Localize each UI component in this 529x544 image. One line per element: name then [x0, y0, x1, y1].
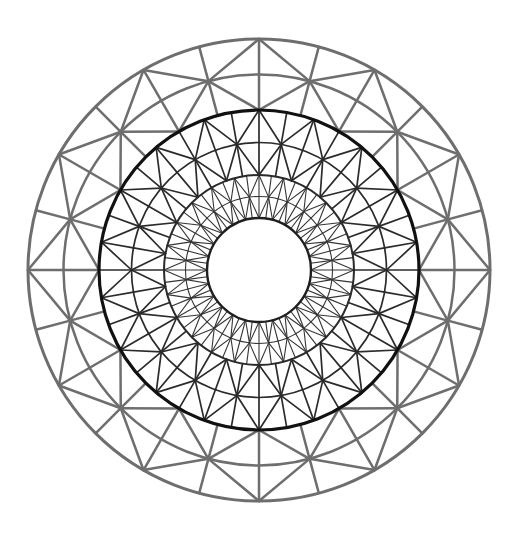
mesh-spoke-outer-zone — [397, 408, 422, 433]
mesh-spoke-outer-zone — [59, 155, 90, 173]
mesh-diagonal-middle-zone — [237, 396, 259, 430]
mesh-spoke-outer-zone — [357, 439, 375, 470]
mesh-diagonal-outer-zone — [59, 321, 70, 386]
mesh-diagonal-inner-zone — [249, 175, 259, 197]
mesh-diagonal-inner-zone — [186, 257, 209, 261]
mesh-diagonal-middle-zone — [195, 380, 204, 420]
mesh-diagonal-inner-zone — [231, 338, 235, 362]
mesh-diagonal-middle-zone — [341, 314, 379, 318]
mesh-spoke-middle-zone — [231, 112, 237, 144]
mesh-diagonal-inner-zone — [284, 338, 288, 362]
mesh-spoke-outer-zone — [199, 47, 208, 81]
mesh-diagonal-middle-zone — [259, 110, 281, 144]
mesh-diagonal-inner-zone — [164, 270, 186, 280]
mesh-diagonal-middle-zone — [139, 223, 177, 227]
mesh-diagonal-inner-zone — [259, 343, 269, 365]
mesh-diagonal-inner-zone — [309, 257, 332, 261]
mesh-diagonal-middle-zone — [357, 188, 398, 190]
mesh-zone-outer — [28, 39, 490, 501]
mesh-spoke-outer-zone — [372, 383, 397, 408]
mesh-spoke-outer-zone — [398, 350, 429, 368]
mesh-diagonal-middle-zone — [314, 120, 323, 160]
mesh-diagonal-middle-zone — [132, 270, 166, 287]
mesh-spoke-inner-zone — [192, 322, 207, 337]
mesh-figure — [0, 0, 529, 544]
mesh-spoke-outer-zone — [448, 321, 482, 330]
mesh-spoke-middle-zone — [136, 167, 161, 188]
mesh-diagonal-middle-zone — [281, 359, 291, 395]
mesh-spoke-middle-zone — [357, 352, 382, 373]
mesh-diagonal-inner-zone — [167, 242, 191, 246]
mesh-spoke-outer-zone — [144, 70, 162, 101]
mesh-diagonal-inner-zone — [269, 320, 273, 343]
mesh-diagonal-outer-zone — [310, 70, 375, 81]
mesh-diagonal-inner-zone — [186, 280, 209, 284]
mesh-diagonal-middle-zone — [281, 144, 291, 180]
mesh-spoke-outer-zone — [448, 210, 482, 219]
mesh-diagonal-outer-zone — [59, 155, 70, 220]
mesh-diagonal-inner-zone — [327, 242, 351, 246]
mesh-diagonal-inner-zone — [246, 320, 250, 343]
mesh-spoke-middle-zone — [357, 167, 382, 188]
mesh-spoke-outer-zone — [339, 409, 357, 440]
mesh-diagonal-middle-zone — [353, 254, 387, 271]
mesh-spoke-inner-zone — [311, 203, 326, 218]
mesh-spoke-outer-zone — [96, 107, 121, 132]
mesh-diagonal-middle-zone — [120, 350, 161, 352]
mesh-spoke-outer-zone — [90, 172, 121, 190]
mesh-diagonal-inner-zone — [246, 197, 250, 220]
mesh-spoke-inner-zone — [311, 322, 326, 337]
mesh-diagonal-inner-zone — [332, 270, 354, 280]
mesh-diagonal-middle-zone — [341, 223, 379, 227]
mesh-diagonal-middle-zone — [139, 314, 177, 318]
mesh-spoke-outer-zone — [310, 459, 319, 493]
mesh-spoke-outer-zone — [339, 101, 357, 132]
mesh-diagonal-inner-zone — [269, 197, 273, 220]
mesh-hole-boundary-circle — [207, 218, 311, 322]
mesh-diagonal-middle-zone — [101, 226, 139, 242]
mesh-spoke-middle-zone — [281, 396, 287, 428]
mesh-diagonal-middle-zone — [379, 226, 417, 242]
mesh-zone-middle — [99, 110, 419, 430]
mesh-spoke-outer-zone — [121, 383, 146, 408]
mesh-spoke-outer-zone — [161, 409, 179, 440]
mesh-diagonal-outer-zone — [144, 70, 209, 81]
mesh-diagonal-middle-zone — [101, 298, 139, 314]
mesh-spoke-outer-zone — [397, 107, 422, 132]
mesh-spoke-outer-zone — [161, 101, 179, 132]
mesh-spoke-middle-zone — [231, 396, 237, 428]
mesh-diagonal-middle-zone — [237, 110, 259, 144]
mesh-diagonal-outer-zone — [448, 321, 459, 386]
mesh-diagonal-middle-zone — [195, 120, 204, 160]
mesh-diagonal-outer-zone — [448, 155, 459, 220]
mesh-spoke-middle-zone — [281, 112, 287, 144]
mesh-diagonal-outer-zone — [144, 459, 209, 470]
mesh-spoke-outer-zone — [199, 459, 208, 493]
mesh-diagonal-inner-zone — [249, 343, 259, 365]
mesh-spoke-outer-zone — [310, 47, 319, 81]
mesh-diagonal-middle-zone — [132, 254, 166, 271]
mesh-spoke-outer-zone — [36, 321, 70, 330]
mesh-spoke-outer-zone — [357, 70, 375, 101]
mesh-diagonal-inner-zone — [309, 280, 332, 284]
mesh-diagonal-middle-zone — [227, 359, 237, 395]
mesh-spoke-outer-zone — [372, 132, 397, 157]
mesh-spoke-outer-zone — [96, 408, 121, 433]
mesh-spoke-outer-zone — [59, 368, 90, 386]
mesh-diagonal-inner-zone — [332, 260, 354, 270]
mesh-diagonal-inner-zone — [327, 295, 351, 299]
mesh-diagonal-inner-zone — [259, 175, 269, 197]
mesh-diagonal-middle-zone — [120, 188, 161, 190]
mesh-spoke-outer-zone — [144, 439, 162, 470]
mesh-diagonal-outer-zone — [310, 459, 375, 470]
mesh-spoke-outer-zone — [398, 172, 429, 190]
mesh-diagonal-inner-zone — [284, 178, 288, 202]
mesh-spoke-outer-zone — [428, 155, 459, 173]
mesh-spoke-inner-zone — [192, 203, 207, 218]
mesh-spoke-outer-zone — [121, 132, 146, 157]
mesh-spoke-outer-zone — [428, 368, 459, 386]
mesh-spoke-middle-zone — [136, 352, 161, 373]
mesh-spoke-outer-zone — [36, 210, 70, 219]
mesh-diagonal-middle-zone — [357, 350, 398, 352]
mesh-diagonal-middle-zone — [314, 380, 323, 420]
